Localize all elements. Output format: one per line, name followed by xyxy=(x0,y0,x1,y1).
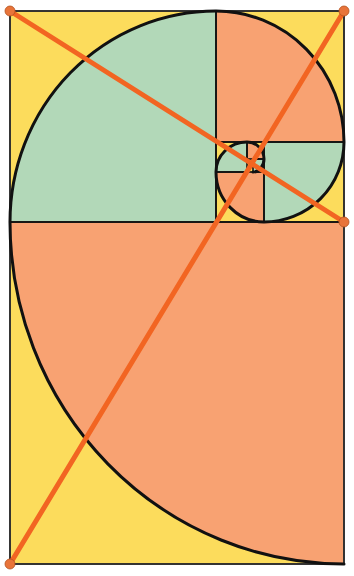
endpoint-top-left-dot-icon xyxy=(5,6,15,16)
diagram-canvas xyxy=(0,0,354,576)
golden-spiral-diagram: Golden ratio spiral with diagonals xyxy=(0,0,354,576)
endpoint-top-right-dot-icon xyxy=(339,6,349,16)
endpoint-bottom-left-dot-icon xyxy=(5,559,15,569)
endpoint-right-mid-dot-icon xyxy=(339,217,349,227)
